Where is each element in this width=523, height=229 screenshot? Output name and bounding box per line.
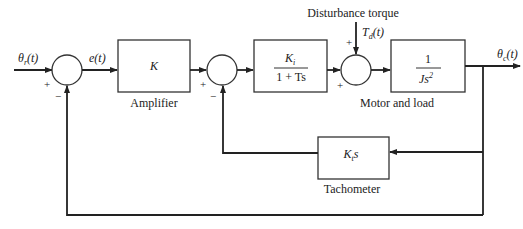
junction-1-minus-sign: − [55,90,61,102]
input-signal-label: θr(t) [18,51,38,67]
block-diagram: θr(t) + − e(t) K Amplifier + − Ki 1 + Ts… [0,0,523,229]
summing-junction-3 [341,55,371,85]
summing-junction-1 [52,55,82,85]
motor-and-load-label: Motor and load [360,96,434,110]
plant-numerator: 1 [425,52,431,66]
junction-3-plus-left-sign: + [337,79,343,91]
amplifier-label: Amplifier [130,96,177,110]
summing-junction-2 [207,55,237,85]
disturbance-signal-label: Td(t) [362,25,384,41]
motor-gain-block [254,40,327,92]
error-signal-label: e(t) [89,51,106,65]
junction-1-plus-sign: + [44,78,50,90]
amplifier-tf: K [149,59,159,73]
disturbance-label: Disturbance torque [307,6,399,20]
tachometer-feedback-line [223,86,318,153]
junction-2-minus-sign: − [210,90,216,102]
motor-gain-denominator: 1 + Ts [276,70,306,84]
junction-2-plus-sign: + [200,78,206,90]
output-signal-label: θc(t) [497,47,518,63]
junction-3-plus-top-sign: + [346,36,352,48]
tachometer-tf: Kts [343,147,359,163]
tachometer-label: Tachometer [324,182,380,196]
